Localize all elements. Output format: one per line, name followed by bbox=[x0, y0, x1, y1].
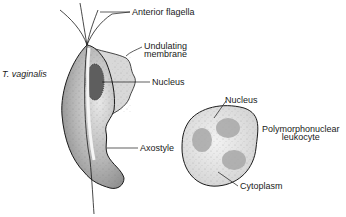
label-cell-name-line2: leukocyte bbox=[262, 133, 340, 141]
label-polymorphonuclear-leukocyte: Polymorphonuclear leukocyte bbox=[262, 125, 340, 141]
organism-label: T. vaginalis bbox=[2, 70, 47, 78]
label-undulating-membrane-line2: membrane bbox=[144, 50, 187, 58]
label-trichomonas-nucleus: Nucleus bbox=[152, 78, 185, 86]
label-axostyle: Axostyle bbox=[140, 144, 174, 152]
label-undulating-membrane: Undulating membrane bbox=[144, 42, 187, 58]
label-leukocyte-nucleus: Nucleus bbox=[225, 96, 258, 104]
label-cytoplasm: Cytoplasm bbox=[240, 182, 283, 190]
label-anterior-flagella: Anterior flagella bbox=[132, 8, 195, 16]
diagram-illustration bbox=[0, 0, 346, 217]
anterior-flagella bbox=[60, 3, 112, 45]
